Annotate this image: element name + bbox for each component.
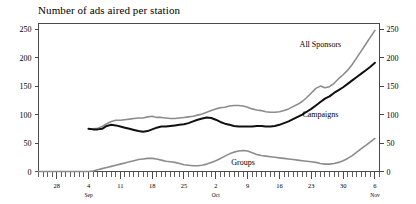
series-annotation-all-sponsors: All Sponsors [300,40,342,49]
x-axis-label-11: 11 [117,182,123,189]
y-axis-label-left-250: 250 [20,25,32,34]
y-axis-label-left-200: 200 [20,54,32,63]
y-axis-label-right-150: 150 [387,82,399,91]
y-axis-label-left-0: 0 [28,168,32,177]
y-axis-label-right-200: 200 [387,54,399,63]
y-axis-label-right-0: 0 [387,168,391,177]
x-axis-label-6: 6 [373,182,377,189]
x-axis-month-label-Oct: Oct [212,192,220,198]
series-annotation-groups: Groups [231,158,255,167]
x-axis-label-23: 23 [308,182,315,189]
y-axis-label-left-50: 50 [24,139,32,148]
chart-figure: Number of ads aired per station 00505010… [0,0,416,204]
x-axis-label-9: 9 [246,182,249,189]
y-axis-label-right-250: 250 [387,25,399,34]
series-annotation-campaigns: Campaigns [302,110,338,119]
y-axis-label-right-100: 100 [387,111,399,120]
x-axis-label-2: 2 [214,182,217,189]
x-axis-label-16: 16 [276,182,283,189]
x-axis-label-18: 18 [149,182,156,189]
series-line-campaigns [89,63,375,132]
x-axis-label-25: 25 [181,182,188,189]
y-axis-label-left-100: 100 [20,111,32,120]
x-axis-label-4: 4 [87,182,91,189]
x-axis-label-28: 28 [53,182,60,189]
x-axis-label-30: 30 [340,182,347,189]
x-axis-month-label-Sep: Sep [84,192,93,198]
y-axis-label-left-150: 150 [20,82,32,91]
y-axis-label-right-50: 50 [387,139,395,148]
series-line-groups [39,138,375,171]
x-axis-month-label-Nov: Nov [370,192,380,198]
line-chart-plot: 005050100100150150200200250250284Sep1118… [0,0,416,204]
